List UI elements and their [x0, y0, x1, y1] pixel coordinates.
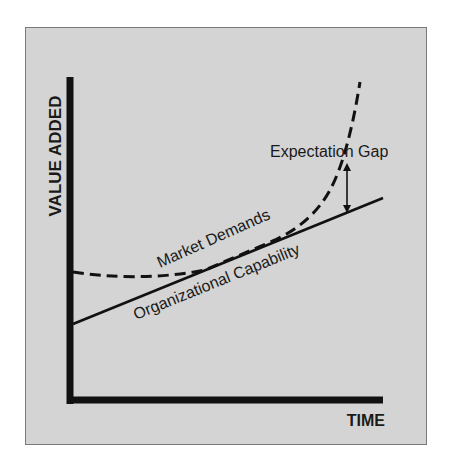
x-axis-label: TIME	[347, 412, 386, 429]
expectation-gap-label: Expectation Gap	[270, 143, 388, 160]
y-axis-label: VALUE ADDED	[46, 96, 65, 217]
organizational-capability-label: Organizational Capability	[131, 240, 302, 322]
market-demands-curve	[73, 82, 360, 277]
value-added-diagram: VALUE ADDED TIME Market Demands Organiza…	[0, 0, 455, 463]
